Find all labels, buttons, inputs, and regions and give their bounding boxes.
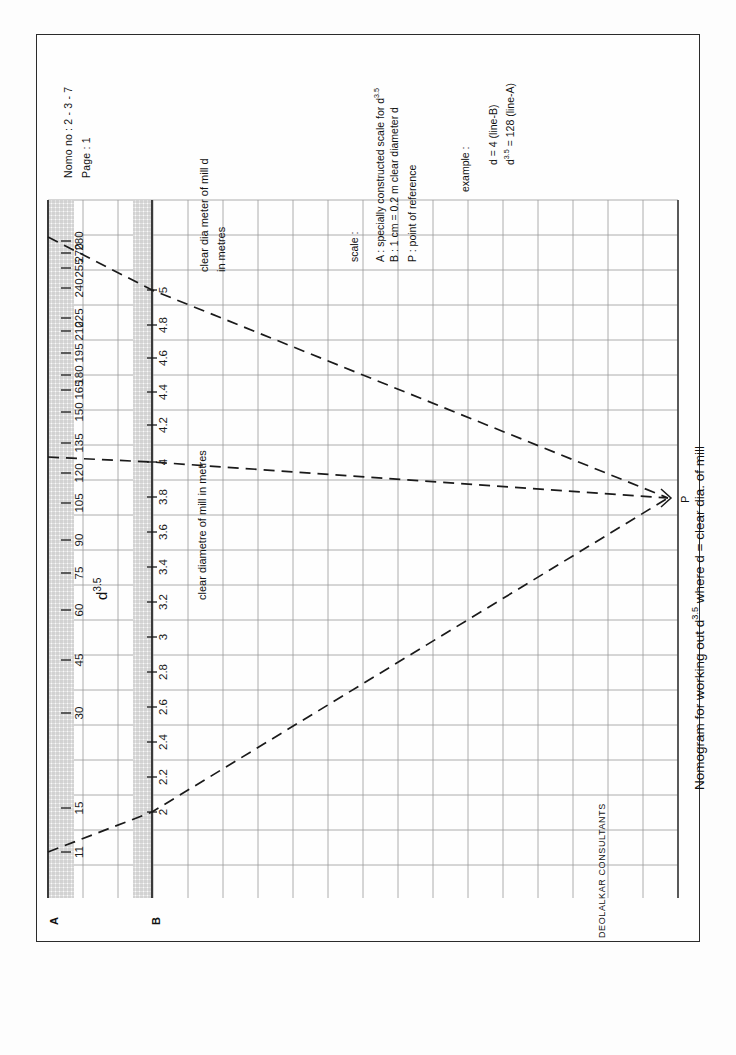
page-title-prefix: Nomogram for working out d — [692, 620, 707, 790]
scale-b-endmark: B — [150, 917, 162, 925]
example-line-2-sup: 3.5 — [503, 149, 511, 159]
scale-b-title-line2: in metres — [215, 227, 227, 272]
tick-label-a-12: 105 — [74, 493, 86, 512]
legend-item-a-sup: 3.5 — [373, 88, 381, 98]
tick-label-a-10: 135 — [74, 433, 86, 452]
tick-label-b-10: 3 — [158, 634, 170, 640]
tick-label-b-9: 3.2 — [158, 594, 170, 610]
tick-label-b-13: 2.4 — [158, 734, 170, 750]
scale-a-endmark: A — [48, 917, 60, 925]
tick-label-b-15: 2 — [158, 809, 170, 815]
example-line-2-rest: = 128 (line-A) — [504, 83, 516, 149]
scale-b-title-line1: clear dia meter of mill d — [198, 158, 210, 272]
legend-item-p: P : point of reference — [406, 165, 418, 262]
tick-label-a-3: 240 — [74, 278, 86, 297]
tick-label-b-11: 2.8 — [158, 664, 170, 680]
tick-label-a-14: 75 — [74, 567, 86, 580]
tick-label-a-8: 165 — [74, 380, 86, 399]
tick-label-b-1: 4.8 — [158, 317, 170, 333]
example-line-2-base: d — [504, 159, 516, 165]
scale-b-title-alt: clear diametre of mill in metres — [196, 450, 208, 600]
tick-label-b-12: 2.6 — [158, 699, 170, 715]
example-line-1: d = 4 (line-B) — [487, 105, 499, 165]
example-line-2: d3.5 = 128 (line-A) — [503, 83, 516, 165]
tick-label-b-0: 5 — [158, 287, 170, 293]
tick-label-a-11: 120 — [74, 463, 86, 482]
page-title-sup: 3.5 — [690, 607, 700, 620]
page-canvas: Nomo no : 2 - 3 - 7 Page : 1 scale : A :… — [0, 0, 736, 1055]
legend-item-a: A : specially constructed scale for d3.5 — [373, 88, 386, 262]
scale-a-label-base: d — [93, 592, 110, 600]
tick-label-a-15: 60 — [74, 604, 86, 617]
scale-a-label: d3.5 — [92, 577, 110, 600]
tick-label-b-7: 3.6 — [158, 524, 170, 540]
point-p-label: P — [679, 496, 691, 503]
footer-company: DEOLALKAR CONSULTANTS — [597, 803, 607, 938]
tick-label-a-17: 30 — [74, 707, 86, 720]
tick-label-b-14: 2.2 — [158, 769, 170, 785]
tick-label-b-6: 3.8 — [158, 489, 170, 505]
legend-item-a-text: A : specially constructed scale for d — [374, 98, 386, 262]
page-number: Page : 1 — [80, 137, 92, 178]
tick-label-a-18: 15 — [74, 802, 86, 815]
tick-label-a-5: 210 — [74, 321, 86, 340]
tick-label-b-4: 4.2 — [158, 417, 170, 433]
page-title-suffix: where d = clear dia. of mill — [692, 446, 707, 607]
tick-label-a-2: 255 — [74, 258, 86, 277]
tick-label-a-9: 150 — [74, 402, 86, 421]
example-heading: example : — [459, 146, 471, 192]
nomo-number: Nomo no : 2 - 3 - 7 — [62, 87, 74, 178]
tick-label-b-8: 3.4 — [158, 559, 170, 575]
tick-label-b-3: 4.4 — [158, 384, 170, 400]
tick-label-b-5: 4 — [158, 459, 170, 465]
page-title: Nomogram for working out d3.5 where d = … — [690, 446, 707, 790]
tick-label-a-13: 90 — [74, 534, 86, 547]
tick-label-a-16: 45 — [74, 654, 86, 667]
tick-label-b-2: 4.6 — [158, 350, 170, 366]
tick-label-a-19: 11 — [74, 846, 86, 858]
scale-a-label-sup: 3.5 — [92, 577, 103, 591]
legend-item-b: B : 1 cm = 0.2 m clear diameter d — [388, 107, 400, 262]
tick-label-a-6: 195 — [74, 343, 86, 362]
legend-heading: scale : — [348, 232, 360, 262]
